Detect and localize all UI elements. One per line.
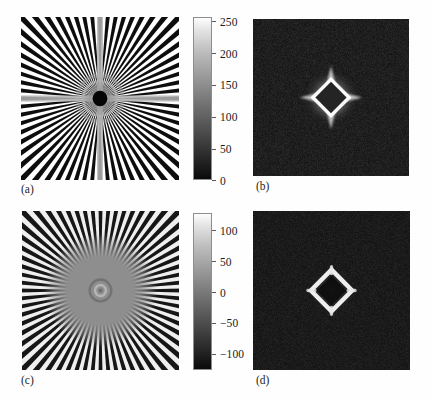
tick-mark-icon bbox=[212, 53, 216, 54]
tick-mark-icon bbox=[212, 323, 216, 324]
panel-b-image bbox=[253, 19, 409, 176]
starburst-pattern-c bbox=[22, 211, 179, 370]
colorbar-bottom-gradient bbox=[193, 213, 212, 370]
colorbar-top: 250 200 150 100 50 0 bbox=[193, 17, 212, 180]
tick-mark-icon bbox=[212, 149, 216, 150]
tick-mark-icon bbox=[212, 180, 216, 181]
center-disc-a bbox=[93, 91, 108, 106]
colorbar-top-tick-50: 50 bbox=[212, 139, 232, 157]
colorbar-top-gradient bbox=[193, 17, 212, 180]
colorbar-bottom-tick-neg50: −50 bbox=[212, 313, 238, 331]
caption-panel-a: (a) bbox=[21, 183, 34, 195]
caption-panel-b: (b) bbox=[256, 180, 269, 192]
colorbar-bottom: 100 50 0 −50 −100 bbox=[193, 213, 212, 370]
tick-mark-icon bbox=[212, 261, 216, 262]
tick-mark-icon bbox=[212, 230, 216, 231]
panel-c-image bbox=[22, 211, 179, 370]
tick-mark-icon bbox=[212, 292, 216, 293]
tick-mark-icon bbox=[212, 117, 216, 118]
starburst-pattern-a bbox=[21, 17, 179, 180]
spectrum-b bbox=[253, 19, 409, 176]
figure-container: (a) 250 200 150 100 50 0 bbox=[0, 0, 432, 399]
colorbar-bottom-tick-50: 50 bbox=[212, 251, 232, 269]
tick-mark-icon bbox=[212, 354, 216, 355]
caption-panel-c: (c) bbox=[21, 374, 34, 386]
colorbar-bottom-tick-100: 100 bbox=[212, 220, 238, 238]
colorbar-bottom-tick-0: 0 bbox=[212, 282, 226, 300]
tick-mark-icon bbox=[212, 85, 216, 86]
panel-d-image bbox=[253, 211, 410, 370]
panel-a-image bbox=[21, 17, 179, 180]
colorbar-top-tick-100: 100 bbox=[212, 107, 238, 125]
colorbar-top-tick-250: 250 bbox=[212, 11, 238, 29]
spectrum-d bbox=[253, 211, 410, 370]
caption-panel-d: (d) bbox=[256, 374, 269, 386]
tick-mark-icon bbox=[212, 21, 216, 22]
colorbar-top-tick-0: 0 bbox=[212, 170, 226, 188]
colorbar-bottom-tick-neg100: −100 bbox=[212, 344, 244, 362]
colorbar-top-tick-200: 200 bbox=[212, 43, 238, 61]
colorbar-top-tick-150: 150 bbox=[212, 75, 238, 93]
